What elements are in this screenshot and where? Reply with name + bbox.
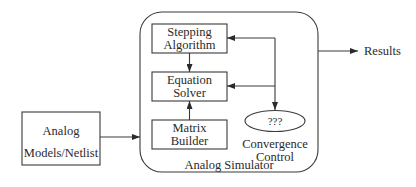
convergence-label-line1: Convergence [242, 137, 308, 151]
input-label-line1: Analog [43, 124, 81, 138]
stepping-algorithm-box: Stepping Algorithm [152, 24, 227, 53]
diagram-canvas: Stepping Algorithm Equation Solver Matri… [0, 0, 416, 187]
equation-solver-box: Equation Solver [152, 72, 227, 101]
results-label: Results [364, 44, 401, 58]
convergence-inner-label: ??? [268, 115, 283, 127]
stepping-label-line1: Stepping [167, 25, 212, 39]
convergence-control-node: ??? Convergence Control [242, 111, 308, 165]
solver-label-line1: Equation [167, 73, 213, 87]
matrix-label-line2: Builder [171, 134, 209, 148]
analog-models-netlist-box: Analog Models/Netlist [22, 112, 100, 165]
convergence-feedback-lines [227, 38, 275, 110]
stepping-label-line2: Algorithm [163, 38, 215, 52]
matrix-builder-box: Matrix Builder [152, 120, 227, 149]
matrix-label-line1: Matrix [172, 121, 207, 135]
input-label-line2: Models/Netlist [24, 146, 99, 160]
container-label: Analog Simulator [184, 158, 274, 172]
solver-label-line2: Solver [173, 86, 206, 100]
